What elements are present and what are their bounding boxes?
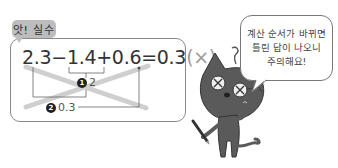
speech-bubble-tail — [0, 0, 338, 168]
